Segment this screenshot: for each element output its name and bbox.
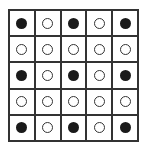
empty-circle-icon bbox=[68, 44, 79, 55]
grid-cell bbox=[9, 36, 35, 62]
dot-grid bbox=[8, 9, 139, 142]
filled-circle-icon bbox=[16, 122, 27, 133]
empty-circle-icon bbox=[94, 44, 105, 55]
grid-cell bbox=[112, 89, 138, 115]
grid-cell bbox=[35, 115, 61, 141]
empty-circle-icon bbox=[94, 122, 105, 133]
grid-cell bbox=[61, 62, 87, 88]
grid-cell bbox=[61, 36, 87, 62]
empty-circle-icon bbox=[94, 96, 105, 107]
grid-cell bbox=[35, 10, 61, 36]
grid-cell bbox=[35, 62, 61, 88]
grid-cell bbox=[112, 62, 138, 88]
empty-circle-icon bbox=[42, 44, 53, 55]
filled-circle-icon bbox=[16, 18, 27, 29]
grid-cell bbox=[86, 89, 112, 115]
grid-cell bbox=[61, 89, 87, 115]
empty-circle-icon bbox=[94, 18, 105, 29]
empty-circle-icon bbox=[42, 18, 53, 29]
grid-cell bbox=[35, 89, 61, 115]
filled-circle-icon bbox=[120, 70, 131, 81]
grid-cell bbox=[112, 10, 138, 36]
grid-cell bbox=[9, 89, 35, 115]
empty-circle-icon bbox=[42, 96, 53, 107]
filled-circle-icon bbox=[120, 18, 131, 29]
grid-cell bbox=[9, 10, 35, 36]
empty-circle-icon bbox=[42, 70, 53, 81]
grid-cell bbox=[61, 115, 87, 141]
empty-circle-icon bbox=[16, 44, 27, 55]
filled-circle-icon bbox=[68, 18, 79, 29]
grid-cell bbox=[112, 115, 138, 141]
grid-cell bbox=[9, 62, 35, 88]
grid-cell bbox=[86, 62, 112, 88]
empty-circle-icon bbox=[16, 96, 27, 107]
empty-circle-icon bbox=[68, 96, 79, 107]
filled-circle-icon bbox=[68, 70, 79, 81]
grid-cell bbox=[61, 10, 87, 36]
empty-circle-icon bbox=[120, 44, 131, 55]
empty-circle-icon bbox=[120, 96, 131, 107]
grid-cell bbox=[86, 36, 112, 62]
grid-cell bbox=[35, 36, 61, 62]
empty-circle-icon bbox=[94, 70, 105, 81]
empty-circle-icon bbox=[42, 122, 53, 133]
grid-cell bbox=[112, 36, 138, 62]
grid-cell bbox=[9, 115, 35, 141]
filled-circle-icon bbox=[120, 122, 131, 133]
grid-cell bbox=[86, 10, 112, 36]
filled-circle-icon bbox=[16, 70, 27, 81]
grid-cell bbox=[86, 115, 112, 141]
filled-circle-icon bbox=[68, 122, 79, 133]
